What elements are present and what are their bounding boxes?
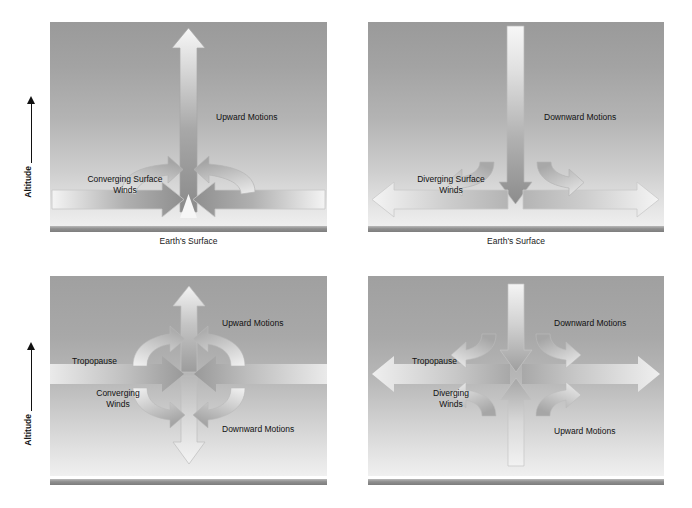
flow-arrows-bottom-left [50,276,327,476]
ground-bar-bottom-left [50,479,327,485]
axis-stem [31,349,32,411]
turning-arrow-upper-left-icon [133,326,185,366]
label-upward-motions: Upward Motions [216,112,277,123]
axis-label: Altitude [23,166,33,198]
converging-wind-arrow-right-icon [193,182,325,217]
label-converging-winds-line2: Winds [70,399,166,410]
label-upward-motions: Upward Motions [554,426,615,437]
tropopause-diverging-arrow-right-icon [522,356,660,392]
panel-bottom-left: Altitude [0,254,346,508]
caption-earths-surface-top-right: Earth's Surface [368,236,664,246]
diverging-wind-arrow-right-icon [523,182,659,217]
ground-bar-bottom-right [368,479,664,485]
flow-arrows-bottom-right [368,276,664,476]
downdraft-arrow-icon [500,284,532,372]
label-tropopause: Tropopause [72,356,117,367]
label-diverging-winds-line1: Diverging [406,388,496,399]
turning-arrow-lower-right-icon [536,382,581,416]
label-downward-motions: Downward Motions [544,112,616,123]
sky-region-bottom-left: Upward Motions Tropopause Converging Win… [50,276,327,476]
label-downward-motions: Downward Motions [222,424,294,435]
label-diverging-surface-winds-line1: Diverging Surface [396,174,506,185]
altitude-axis-top-left: Altitude [22,96,48,224]
turning-arrow-right-icon [194,156,255,194]
panel-top-right: Downward Motions Diverging Surface Winds… [346,0,692,254]
label-diverging-surface-winds-line2: Winds [396,185,506,196]
axis-label: Altitude [23,414,33,446]
turning-arrow-upper-right-icon [193,326,245,366]
caption-earths-surface-top-left: Earth's Surface [50,236,327,246]
turning-arrow-lower-right-icon [193,388,245,428]
sky-region-top-left: Upward Motions Converging Surface Winds [50,22,327,226]
panel-bottom-right: Downward Motions Tropopause Diverging Wi… [346,254,692,508]
panel-top-left: Altitude [0,0,346,254]
label-diverging-winds-line2: Winds [406,399,496,410]
updraft-arrow-icon [173,286,205,372]
updraft-arrow-icon [500,378,532,466]
ground-bar-top-right [368,226,664,232]
label-converging-surface-winds-line1: Converging Surface [70,174,180,185]
turning-arrow-upper-left-icon [451,334,496,368]
altitude-axis-bottom-left: Altitude [22,342,48,482]
sky-region-bottom-right: Downward Motions Tropopause Diverging Wi… [368,276,664,476]
label-upward-motions: Upward Motions [222,318,283,329]
axis-stem [31,103,32,163]
label-converging-winds-line1: Converging [70,388,166,399]
tropopause-converging-arrow-right-icon [194,356,327,392]
sky-region-top-right: Downward Motions Diverging Surface Winds [368,22,664,226]
turning-arrow-upper-right-icon [536,334,581,368]
label-tropopause: Tropopause [412,356,457,367]
label-downward-motions: Downward Motions [554,318,626,329]
label-converging-surface-winds-line2: Winds [70,185,180,196]
ground-bar-top-left [50,226,327,232]
